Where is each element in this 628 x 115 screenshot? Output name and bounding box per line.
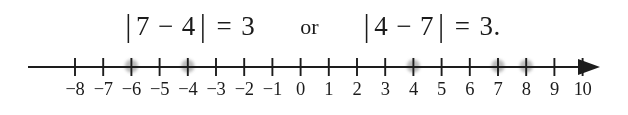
tick-label: 2 (353, 79, 362, 99)
abs-bar-close-left: | (199, 12, 208, 39)
abs-bar-close-right: | (437, 12, 446, 39)
equals-left: = (207, 11, 238, 41)
tick-label: −3 (206, 79, 225, 99)
expression-right: |4−7|=3. (363, 11, 504, 40)
expression-left: |7−4|=3 (124, 11, 258, 40)
tick-label-group: −8−7−6−5−4−3−2−1012345678910 (65, 79, 591, 99)
result-right: 3. (476, 11, 503, 41)
tick-label: −5 (150, 79, 169, 99)
tick-label: 6 (465, 79, 474, 99)
result-left: 3 (238, 11, 258, 41)
tick-label: 1 (324, 79, 333, 99)
tick-label: −8 (65, 79, 84, 99)
tick-label: −7 (94, 79, 113, 99)
operator-left: − (153, 11, 179, 41)
operand-left-first: 7 (133, 11, 153, 41)
tick-label: −2 (235, 79, 254, 99)
tick-label: −1 (263, 79, 282, 99)
number-line-svg: −8−7−6−5−4−3−2−1012345678910 (0, 48, 628, 115)
number-line: −8−7−6−5−4−3−2−1012345678910 (0, 48, 628, 115)
tick-label: −4 (178, 79, 197, 99)
tick-label: 3 (381, 79, 390, 99)
tick-label: −6 (122, 79, 141, 99)
operand-right-second: 7 (417, 11, 437, 41)
abs-bar-open-right: | (363, 12, 372, 39)
conjunction-or: or (300, 14, 318, 40)
tick-label: 0 (296, 79, 305, 99)
tick-label: 5 (437, 79, 446, 99)
tick-label: 10 (574, 79, 592, 99)
operand-right-first: 4 (371, 11, 391, 41)
tick-label: 4 (409, 79, 418, 99)
tick-label: 9 (550, 79, 559, 99)
axis-arrowhead (578, 59, 600, 75)
abs-bar-open-left: | (124, 12, 133, 39)
equation-row: |7−4|=3 or |4−7|=3. (0, 6, 628, 44)
equals-right: = (446, 11, 477, 41)
tick-label: 7 (494, 79, 503, 99)
operator-right: − (391, 11, 417, 41)
operand-left-second: 4 (179, 11, 199, 41)
number-line-figure: |7−4|=3 or |4−7|=3. −8−7−6−5−4−3−2−10123… (0, 0, 628, 115)
tick-label: 8 (522, 79, 531, 99)
